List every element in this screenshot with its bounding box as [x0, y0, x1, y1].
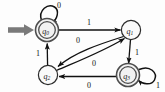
- transition-label-q2-q0: 1: [36, 49, 40, 58]
- transition-q3-q2[interactable]: 0: [59, 77, 117, 90]
- transition-label-q1-q3: 1: [135, 48, 139, 57]
- start-arrow-marker: [8, 24, 34, 36]
- transition-q1-q2[interactable]: 0: [58, 36, 124, 67]
- transition-q2-q0[interactable]: 1: [36, 44, 48, 67]
- state-node-q2[interactable]: q2: [38, 65, 57, 84]
- transition-label-q0-q1: 1: [87, 18, 91, 27]
- transition-label-q0-q0: 0: [57, 1, 61, 10]
- state-node-q0[interactable]: q0: [36, 19, 59, 42]
- state-node-q3[interactable]: q3: [117, 64, 140, 87]
- transition-q3-q3[interactable]: 1: [139, 68, 161, 90]
- state-node-q1[interactable]: q1: [121, 20, 140, 39]
- automaton-svg: 0 1 0 0 1 1 0: [0, 0, 165, 92]
- transition-q0-q1[interactable]: 1: [59, 18, 121, 31]
- transition-label-q2-q1: 0: [92, 59, 96, 68]
- transition-label-q3-q2: 0: [87, 81, 91, 90]
- transition-label-q1-q2: 0: [76, 36, 80, 45]
- state-diagram-canvas: 0 1 0 0 1 1 0: [0, 0, 165, 92]
- transition-q1-q3[interactable]: 1: [129, 40, 139, 64]
- transition-q2-q1[interactable]: 0: [57, 39, 125, 71]
- transition-label-q3-q3: 1: [156, 81, 160, 90]
